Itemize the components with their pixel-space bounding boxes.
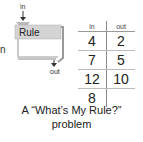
cell-in: 4 (78, 32, 107, 51)
in-out-table: in out 4 2 7 5 12 10 8 (78, 21, 135, 107)
table-row: 4 2 (78, 32, 135, 51)
caption-line-2: problem (0, 117, 143, 131)
table-row: 12 10 (78, 70, 135, 89)
caption-line-1: A “What’s My Rule?” (0, 103, 143, 117)
function-machine: in Rule out (0, 0, 70, 80)
header-in: in (78, 21, 107, 32)
cell-out: 10 (107, 70, 136, 89)
input-label: in (20, 3, 25, 10)
cell-out: 5 (107, 51, 136, 70)
output-label: out (50, 68, 60, 75)
figure-caption: A “What’s My Rule?” problem (0, 103, 143, 131)
header-out: out (107, 21, 136, 32)
rule-label: Rule (19, 27, 40, 38)
cell-in: 7 (78, 51, 107, 70)
table-row: 7 5 (78, 51, 135, 70)
cell-in: 12 (78, 70, 107, 89)
cell-out: 2 (107, 32, 136, 51)
